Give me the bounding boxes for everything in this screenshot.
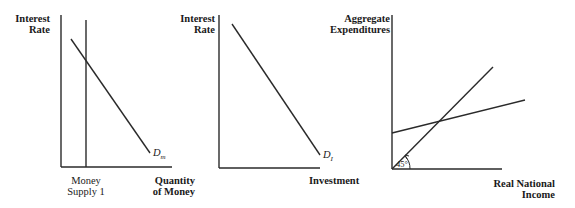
y-label-line2: Expenditures <box>300 24 390 35</box>
x-label-line1: Real National <box>470 178 555 189</box>
x-label-line2: of Money <box>140 186 195 197</box>
investment-demand-label: DI <box>323 149 333 165</box>
investment-y-label: Interest Rate <box>170 13 215 35</box>
aggregate-expenditure-line <box>392 100 525 133</box>
investment-x-label: Investment <box>309 175 359 186</box>
y-label-line1: Interest <box>10 13 50 24</box>
money-market-panel <box>61 15 172 167</box>
ae-x-label: Real National Income <box>470 178 555 200</box>
curve-label-sub: m <box>161 153 166 161</box>
y-label-line1: Aggregate <box>300 13 390 24</box>
supply-label-line2: Supply 1 <box>60 186 112 197</box>
supply-label-line1: Money <box>60 175 112 186</box>
x-label-line1: Quantity <box>140 175 195 186</box>
curve-label-sub: I <box>331 155 333 163</box>
y-label-line1: Interest <box>170 13 215 24</box>
x-label-line2: Income <box>470 189 555 200</box>
money-demand-curve <box>71 39 150 153</box>
money-market-x-label: Quantity of Money <box>140 175 195 197</box>
investment-demand-curve <box>232 24 320 155</box>
money-demand-label: Dm <box>153 147 166 163</box>
investment-panel <box>219 15 320 168</box>
aggregate-expenditures-panel <box>392 15 525 169</box>
money-market-y-label: Interest Rate <box>10 13 50 35</box>
y-label-line2: Rate <box>10 24 50 35</box>
angle-label: 45° <box>396 159 408 170</box>
money-supply-label: Money Supply 1 <box>60 175 112 197</box>
curve-label-main: D <box>153 147 161 158</box>
ae-y-label: Aggregate Expenditures <box>300 13 390 35</box>
forty-five-degree-line <box>392 67 493 169</box>
curve-label-main: D <box>323 149 331 160</box>
y-label-line2: Rate <box>170 24 215 35</box>
